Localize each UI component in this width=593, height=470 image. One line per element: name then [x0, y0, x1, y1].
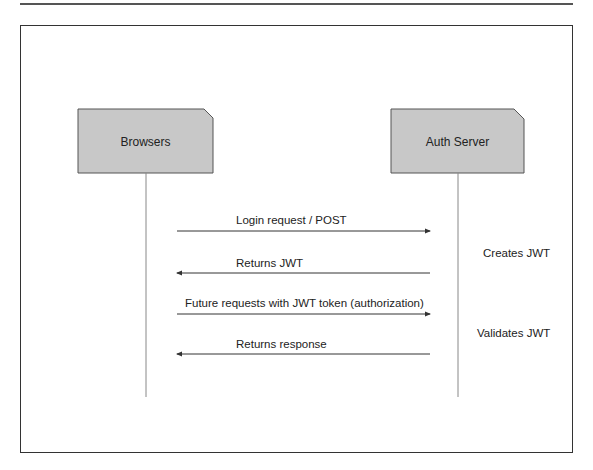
message-label-returns-jwt: Returns JWT	[236, 257, 303, 270]
sequence-diagram	[0, 0, 593, 470]
participant-label-auth-server: Auth Server	[391, 135, 524, 149]
participant-label-browsers: Browsers	[78, 135, 213, 149]
message-label-login-request: Login request / POST	[236, 214, 347, 227]
note-creates-jwt: Creates JWT	[483, 247, 550, 260]
message-label-returns-response: Returns response	[236, 338, 327, 351]
message-label-future-requests: Future requests with JWT token (authoriz…	[185, 297, 424, 310]
note-validates-jwt: Validates JWT	[477, 327, 550, 340]
